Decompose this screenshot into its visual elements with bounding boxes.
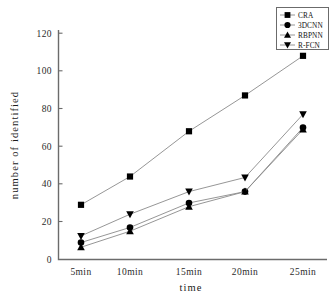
square-data-point [242,92,248,98]
x-tick-label: 15min [176,267,202,277]
y-tick-label: 100 [37,66,52,76]
triangle-down-data-point [185,189,193,196]
square-data-point [127,173,133,179]
series-line [81,127,303,242]
x-axis-title: time [179,282,202,293]
y-tick-label: 0 [47,255,52,265]
axes-group [59,30,328,260]
series-layer [77,53,307,251]
legend-label: CRA [298,11,314,20]
series-3dcnn [78,124,307,246]
y-tick-label: 40 [42,179,52,189]
circle-marker-icon [284,22,290,28]
square-data-point [186,128,192,134]
triangle-down-data-point [77,233,85,240]
x-tick-labels: 5min 10min 15min 20min 25min [70,267,316,277]
square-marker-icon [285,12,291,18]
y-tick-label: 120 [37,29,52,39]
x-tick-label: 5min [70,267,91,277]
line-chart-figure: 120 100 80 60 40 20 0 5min 10min 15min 2… [0,0,334,303]
legend-label: RBPNN [298,31,323,40]
legend-label: R-FCN [298,41,321,50]
axis-lines [59,30,328,260]
y-axis-title: number of identified [9,91,20,199]
series-rbpnn [77,125,307,250]
triangle-down-data-point [126,211,134,218]
x-tick-label: 10min [117,267,143,277]
y-tick-label: 60 [42,142,52,152]
x-tick-label: 25min [290,267,316,277]
y-tick-labels: 120 100 80 60 40 20 0 [37,29,52,265]
x-tick-label: 20min [232,267,258,277]
legend: CRA 3DCNN RBPNN R-FCN [277,8,329,50]
series-line [81,129,303,247]
square-data-point [78,202,84,208]
y-tick-label: 20 [42,217,52,227]
chart-canvas: 120 100 80 60 40 20 0 5min 10min 15min 2… [0,0,334,303]
square-data-point [300,53,306,59]
series-cra [78,53,306,208]
y-tick-label: 80 [42,104,52,114]
legend-label: 3DCNN [298,21,323,30]
